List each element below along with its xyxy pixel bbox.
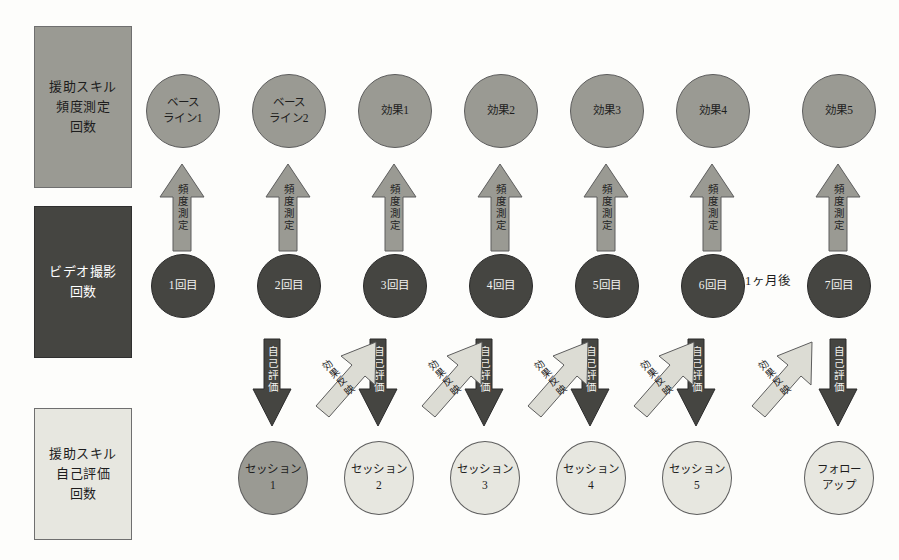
video-node-label-6: 6回目 [699, 278, 727, 294]
category-label-skill-frequency: 援助スキル頻度測定回数 [49, 77, 117, 137]
category-label-video-recording-line-2: 回数 [49, 282, 117, 302]
video-node-label-3: 3回目 [381, 278, 409, 294]
video-node-label-5-line-1: 5回目 [593, 278, 621, 294]
measure-node-label-4-line-1: 効果2 [487, 103, 515, 119]
measure-node-5[interactable]: 効果3 [570, 74, 644, 148]
session-node-label-1-line-2: 1 [245, 478, 301, 494]
measure-node-label-7-line-1: 効果5 [825, 103, 853, 119]
diagonal-arrow-4[interactable]: 効果反映 [624, 338, 702, 422]
measure-node-label-1-line-2: ライン1 [163, 111, 203, 127]
video-node-5[interactable]: 5回目 [575, 254, 639, 318]
up-arrow-4[interactable]: 頻度測定 [477, 163, 523, 253]
measure-node-label-7: 効果5 [825, 103, 853, 119]
measure-node-label-5: 効果3 [593, 103, 621, 119]
diagram-canvas: 援助スキル頻度測定回数ビデオ撮影回数援助スキル自己評価回数ベースライン1ベースラ… [0, 0, 899, 560]
session-node-1[interactable]: セッション1 [238, 441, 308, 515]
category-label-video-recording-line-1: ビデオ撮影 [49, 262, 117, 282]
up-arrow-5[interactable]: 頻度測定 [583, 163, 629, 253]
measure-node-label-5-line-1: 効果3 [593, 103, 621, 119]
diagonal-arrow-5[interactable]: 効果反映 [742, 338, 820, 422]
measure-node-2[interactable]: ベースライン2 [252, 74, 326, 148]
category-label-skill-self-eval-line-2: 自己評価 [49, 464, 117, 484]
category-label-skill-frequency-line-2: 頻度測定 [49, 97, 117, 117]
measure-node-label-6: 効果4 [699, 103, 727, 119]
category-label-skill-frequency-line-1: 援助スキル [49, 77, 117, 97]
category-box-skill-frequency: 援助スキル頻度測定回数 [34, 26, 132, 188]
session-node-label-6-line-1: フォロー [817, 462, 862, 478]
down-arrow-1[interactable]: 自己評価 [252, 337, 292, 427]
measure-node-label-3: 効果1 [381, 103, 409, 119]
measure-node-label-2-line-2: ライン2 [269, 111, 309, 127]
up-arrow-2[interactable]: 頻度測定 [265, 163, 311, 253]
video-node-label-1-line-1: 1回目 [169, 278, 197, 294]
session-node-label-3-line-2: 3 [457, 478, 513, 494]
category-label-skill-self-eval-line-1: 援助スキル [49, 444, 117, 464]
session-node-3[interactable]: セッション3 [450, 441, 520, 515]
measure-node-label-3-line-1: 効果1 [381, 103, 409, 119]
measure-node-3[interactable]: 効果1 [358, 74, 432, 148]
video-node-label-7: 7回目 [825, 278, 853, 294]
measure-node-label-2: ベースライン2 [269, 95, 309, 126]
session-node-label-6: フォローアップ [817, 462, 862, 493]
category-box-skill-self-eval: 援助スキル自己評価回数 [34, 408, 132, 540]
video-node-6[interactable]: 6回目 [681, 254, 745, 318]
measure-node-label-2-line-1: ベース [269, 95, 309, 111]
video-node-label-3-line-1: 3回目 [381, 278, 409, 294]
video-node-label-2-line-1: 2回目 [275, 278, 303, 294]
video-node-label-4: 4回目 [487, 278, 515, 294]
measure-node-label-4: 効果2 [487, 103, 515, 119]
session-node-label-3: セッション3 [457, 462, 513, 493]
down-arrow-6[interactable]: 自己評価 [818, 337, 858, 427]
session-node-5[interactable]: セッション5 [662, 441, 732, 515]
session-node-4[interactable]: セッション4 [556, 441, 626, 515]
session-node-label-1: セッション1 [245, 462, 301, 493]
video-node-4[interactable]: 4回目 [469, 254, 533, 318]
up-arrow-7[interactable]: 頻度測定 [815, 163, 861, 253]
measure-node-1[interactable]: ベースライン1 [146, 74, 220, 148]
session-node-label-2-line-1: セッション [351, 462, 407, 478]
diagonal-arrow-3[interactable]: 効果反映 [518, 338, 596, 422]
session-node-6[interactable]: フォローアップ [804, 441, 874, 515]
session-node-2[interactable]: セッション2 [344, 441, 414, 515]
category-label-skill-self-eval-line-3: 回数 [49, 484, 117, 504]
session-node-label-6-line-2: アップ [817, 478, 862, 494]
session-node-label-2: セッション2 [351, 462, 407, 493]
category-label-skill-frequency-line-3: 回数 [49, 117, 117, 137]
video-node-7[interactable]: 7回目 [807, 254, 871, 318]
up-arrow-1[interactable]: 頻度測定 [159, 163, 205, 253]
session-node-label-4-line-1: セッション [563, 462, 619, 478]
video-node-label-4-line-1: 4回目 [487, 278, 515, 294]
diagonal-arrow-1[interactable]: 効果反映 [306, 338, 384, 422]
session-node-label-4: セッション4 [563, 462, 619, 493]
session-node-label-5-line-1: セッション [669, 462, 725, 478]
video-node-label-1: 1回目 [169, 278, 197, 294]
session-node-label-5: セッション5 [669, 462, 725, 493]
session-node-label-4-line-2: 4 [563, 478, 619, 494]
up-arrow-6[interactable]: 頻度測定 [689, 163, 735, 253]
session-node-label-3-line-1: セッション [457, 462, 513, 478]
video-node-label-5: 5回目 [593, 278, 621, 294]
measure-node-label-1-line-1: ベース [163, 95, 203, 111]
session-node-label-2-line-2: 2 [351, 478, 407, 494]
measure-node-4[interactable]: 効果2 [464, 74, 538, 148]
session-node-label-5-line-2: 5 [669, 478, 725, 494]
measure-node-label-1: ベースライン1 [163, 95, 203, 126]
session-node-label-1-line-1: セッション [245, 462, 301, 478]
video-node-1[interactable]: 1回目 [151, 254, 215, 318]
video-row-note: 1ヶ月後 [745, 270, 791, 289]
video-node-label-2: 2回目 [275, 278, 303, 294]
video-node-2[interactable]: 2回目 [257, 254, 321, 318]
measure-node-7[interactable]: 効果5 [802, 74, 876, 148]
category-label-video-recording: ビデオ撮影回数 [49, 262, 117, 302]
category-label-skill-self-eval: 援助スキル自己評価回数 [49, 444, 117, 504]
measure-node-6[interactable]: 効果4 [676, 74, 750, 148]
video-node-label-6-line-1: 6回目 [699, 278, 727, 294]
category-box-video-recording: ビデオ撮影回数 [34, 206, 132, 358]
video-node-3[interactable]: 3回目 [363, 254, 427, 318]
video-node-label-7-line-1: 7回目 [825, 278, 853, 294]
diagonal-arrow-2[interactable]: 効果反映 [412, 338, 490, 422]
up-arrow-3[interactable]: 頻度測定 [371, 163, 417, 253]
measure-node-label-6-line-1: 効果4 [699, 103, 727, 119]
